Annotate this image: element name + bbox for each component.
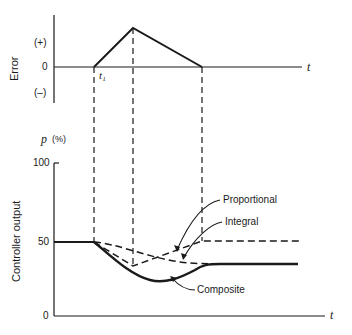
error-time-label: t [307, 61, 310, 73]
error-tick-zero: 0 [42, 62, 48, 72]
output-tick-50: 50 [38, 237, 49, 247]
error-tick-negative: (–) [34, 88, 46, 98]
integral-leader [184, 222, 222, 257]
t1-label: t₁ [99, 70, 106, 81]
output-tick-100: 100 [33, 158, 50, 168]
output-unit-percent: (%) [52, 135, 66, 144]
pid-response-diagram [0, 0, 352, 335]
integral-label: Integral [225, 217, 258, 227]
output-time-label: t [330, 309, 333, 321]
composite-label: Composite [197, 285, 245, 295]
error-axis-label: Error [9, 57, 20, 81]
error-tick-positive: (+) [34, 38, 47, 48]
proportional-label: Proportional [223, 195, 277, 205]
proportional-curve [94, 241, 300, 266]
output-unit-p: p [41, 133, 47, 145]
error-signal [94, 28, 202, 67]
output-axis-label: Controller output [11, 201, 22, 282]
output-tick-0: 0 [43, 311, 49, 321]
